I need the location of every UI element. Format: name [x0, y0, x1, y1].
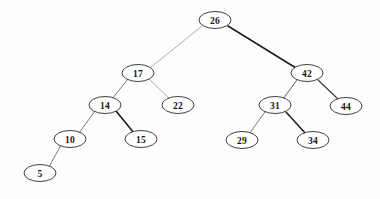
node-value-label: 14: [100, 101, 110, 111]
tree-edge-right: [228, 26, 296, 68]
binary-search-tree-graphic: 26174214223144101529345: [0, 0, 380, 199]
tree-edge-left: [79, 111, 95, 133]
tree-node[interactable]: 17: [122, 65, 154, 82]
nodes-layer: 26174214223144101529345: [24, 12, 362, 182]
tree-diagram-canvas: 26174214223144101529345: [0, 0, 380, 199]
tree-node[interactable]: 26: [199, 12, 231, 29]
tree-edge-right: [318, 80, 339, 100]
node-value-label: 34: [308, 136, 318, 146]
node-value-label: 22: [173, 101, 183, 111]
edges-layer: [49, 26, 339, 167]
tree-edge-right: [286, 112, 306, 134]
tree-node[interactable]: 29: [226, 132, 258, 149]
tree-node[interactable]: 10: [54, 131, 86, 148]
tree-edge-left: [283, 80, 297, 99]
tree-edge-right: [116, 111, 134, 133]
node-value-label: 5: [38, 169, 43, 179]
tree-edge-left: [249, 112, 265, 134]
node-value-label: 26: [210, 16, 220, 26]
tree-node[interactable]: 5: [24, 165, 56, 182]
node-value-label: 42: [302, 69, 312, 79]
node-value-label: 44: [341, 102, 351, 112]
node-value-label: 31: [270, 101, 280, 111]
tree-edge-left: [112, 79, 128, 99]
node-value-label: 10: [65, 135, 75, 145]
tree-node[interactable]: 31: [259, 97, 291, 114]
tree-edge-left: [49, 145, 61, 167]
node-value-label: 29: [237, 136, 247, 146]
tree-node[interactable]: 15: [125, 131, 157, 148]
tree-edge-right: [149, 79, 170, 99]
tree-edge-left: [150, 26, 202, 68]
tree-node[interactable]: 14: [89, 97, 121, 114]
tree-node[interactable]: 44: [330, 98, 362, 115]
tree-node[interactable]: 42: [291, 65, 323, 82]
tree-node[interactable]: 22: [162, 97, 194, 114]
node-value-label: 15: [136, 135, 146, 145]
node-value-label: 17: [133, 69, 143, 79]
tree-node[interactable]: 34: [297, 132, 329, 149]
